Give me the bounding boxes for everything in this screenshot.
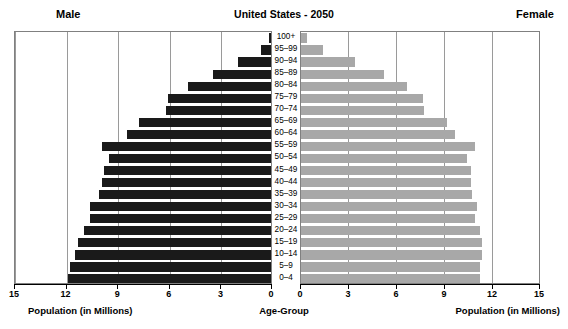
table-row bbox=[301, 116, 539, 128]
age-group-tick-label: 55–59 bbox=[272, 139, 300, 151]
bar-female-10–14 bbox=[301, 250, 482, 259]
chart-title: United States - 2050 bbox=[0, 8, 568, 20]
bar-female-55–59 bbox=[301, 142, 475, 151]
table-row bbox=[15, 249, 271, 261]
bar-female-30–34 bbox=[301, 202, 477, 211]
male-bar-group bbox=[15, 32, 271, 283]
age-group-tick-label: 10–14 bbox=[272, 248, 300, 260]
bar-male-90–94 bbox=[238, 57, 271, 66]
age-group-tick-label: 70–74 bbox=[272, 103, 300, 115]
age-group-axis: 100+95–9990–9485–8980–8475–7970–7465–696… bbox=[272, 31, 300, 284]
age-group-tick-label: 45–49 bbox=[272, 164, 300, 176]
bar-male-100+ bbox=[269, 33, 271, 42]
table-row bbox=[15, 189, 271, 201]
table-row bbox=[15, 140, 271, 152]
table-row bbox=[301, 225, 539, 237]
bar-male-40–44 bbox=[102, 178, 271, 187]
bar-female-75–79 bbox=[301, 94, 423, 103]
bar-male-55–59 bbox=[102, 142, 271, 151]
age-group-tick-label: 80–84 bbox=[272, 79, 300, 91]
age-group-tick-label: 15–19 bbox=[272, 236, 300, 248]
age-group-tick-label: 95–99 bbox=[272, 43, 300, 55]
tick-label-female-0: 0 bbox=[297, 289, 302, 299]
bar-female-35–39 bbox=[301, 190, 472, 199]
age-group-tick-label: 35–39 bbox=[272, 188, 300, 200]
bar-male-20–24 bbox=[84, 226, 271, 235]
table-row bbox=[301, 261, 539, 273]
age-group-tick-label: 60–64 bbox=[272, 127, 300, 139]
bar-female-95–99 bbox=[301, 45, 323, 54]
table-row bbox=[15, 104, 271, 116]
bar-male-85–89 bbox=[213, 70, 271, 79]
bar-female-45–49 bbox=[301, 166, 471, 175]
age-group-tick-label: 5–9 bbox=[272, 260, 300, 272]
table-row bbox=[15, 201, 271, 213]
table-row bbox=[301, 177, 539, 189]
female-side-label: Female bbox=[516, 8, 554, 20]
age-group-tick-label: 75–79 bbox=[272, 91, 300, 103]
table-row bbox=[15, 32, 271, 44]
bar-male-5–9 bbox=[70, 262, 271, 271]
bar-female-70–74 bbox=[301, 106, 424, 115]
table-row bbox=[15, 273, 271, 284]
female-plot-area bbox=[300, 31, 540, 284]
table-row bbox=[301, 92, 539, 104]
table-row bbox=[301, 152, 539, 164]
table-row bbox=[15, 261, 271, 273]
table-row bbox=[301, 128, 539, 140]
table-row bbox=[301, 201, 539, 213]
table-row bbox=[301, 237, 539, 249]
table-row bbox=[301, 189, 539, 201]
age-group-tick-label: 40–44 bbox=[272, 176, 300, 188]
bar-male-45–49 bbox=[104, 166, 271, 175]
age-group-tick-label: 30–34 bbox=[272, 200, 300, 212]
bar-male-30–34 bbox=[90, 202, 271, 211]
table-row bbox=[301, 44, 539, 56]
table-row bbox=[301, 68, 539, 80]
table-row bbox=[15, 225, 271, 237]
age-group-tick-label: 0–4 bbox=[272, 272, 300, 284]
bar-female-60–64 bbox=[301, 130, 455, 139]
bar-female-20–24 bbox=[301, 226, 480, 235]
bar-male-25–29 bbox=[90, 214, 271, 223]
table-row bbox=[15, 56, 271, 68]
table-row bbox=[15, 237, 271, 249]
table-row bbox=[301, 140, 539, 152]
table-row bbox=[301, 213, 539, 225]
table-row bbox=[301, 165, 539, 177]
tick-label-male-15: 15 bbox=[9, 289, 19, 299]
bar-male-70–74 bbox=[166, 106, 271, 115]
table-row bbox=[15, 44, 271, 56]
bar-female-0–4 bbox=[301, 274, 480, 283]
table-row bbox=[15, 80, 271, 92]
female-bar-group bbox=[301, 32, 539, 283]
age-group-tick-label: 90–94 bbox=[272, 55, 300, 67]
table-row bbox=[301, 56, 539, 68]
bar-female-80–84 bbox=[301, 82, 407, 91]
bar-male-15–19 bbox=[78, 238, 271, 247]
tick-label-male-0: 0 bbox=[268, 289, 273, 299]
table-row bbox=[301, 80, 539, 92]
bar-male-0–4 bbox=[68, 274, 271, 283]
table-row bbox=[301, 249, 539, 261]
male-axis-line bbox=[14, 284, 272, 285]
bar-female-5–9 bbox=[301, 262, 480, 271]
table-row bbox=[301, 104, 539, 116]
bar-female-85–89 bbox=[301, 70, 384, 79]
table-row bbox=[15, 68, 271, 80]
bar-male-60–64 bbox=[127, 130, 271, 139]
chart-header: Male United States - 2050 Female bbox=[0, 8, 568, 26]
tick-label-female-9: 9 bbox=[441, 289, 446, 299]
age-group-tick-label: 25–29 bbox=[272, 212, 300, 224]
tick-label-male-9: 9 bbox=[115, 289, 120, 299]
age-group-tick-label: 100+ bbox=[272, 31, 300, 43]
table-row bbox=[15, 165, 271, 177]
age-group-tick-label: 65–69 bbox=[272, 115, 300, 127]
bar-male-35–39 bbox=[99, 190, 271, 199]
bar-male-80–84 bbox=[188, 82, 271, 91]
bar-male-10–14 bbox=[75, 250, 271, 259]
table-row bbox=[15, 177, 271, 189]
table-row bbox=[301, 32, 539, 44]
female-axis-caption: Population (in Millions) bbox=[456, 305, 561, 316]
female-axis-line bbox=[300, 284, 540, 285]
